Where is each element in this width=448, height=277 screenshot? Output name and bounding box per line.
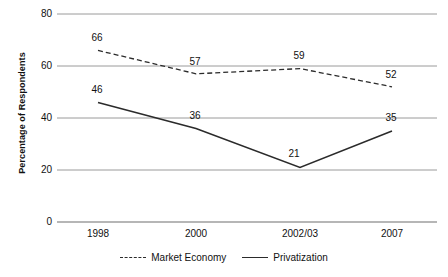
legend-label-market-economy: Market Economy (151, 252, 226, 263)
solid-line-icon (242, 254, 268, 262)
legend-label-privatization: Privatization (273, 252, 327, 263)
chart-legend: Market Economy Privatization (0, 252, 448, 263)
dashed-line-icon (120, 254, 146, 262)
value-label-privatization-2000: 36 (180, 110, 210, 121)
legend-item-market-economy: Market Economy (120, 252, 226, 263)
x-tick-label-1998: 1998 (58, 228, 138, 239)
series-line-privatization (98, 102, 392, 167)
value-label-privatization-1998: 46 (82, 84, 112, 95)
line-chart: Percentage of Respondents 80 60 40 20 0 … (0, 0, 448, 277)
x-tick-label-2007: 2007 (352, 228, 432, 239)
series-line-market-economy (98, 50, 392, 86)
x-tick-label-2002-03: 2002/03 (260, 228, 340, 239)
value-label-market-economy-1998: 66 (82, 32, 112, 43)
value-label-market-economy-2007: 52 (376, 69, 406, 80)
x-tick-label-2000: 2000 (156, 228, 236, 239)
legend-item-privatization: Privatization (242, 252, 327, 263)
value-label-privatization-2002-03: 21 (279, 148, 309, 159)
value-label-market-economy-2000: 57 (180, 56, 210, 67)
value-label-market-economy-2002-03: 59 (284, 50, 314, 61)
value-label-privatization-2007: 35 (376, 112, 406, 123)
